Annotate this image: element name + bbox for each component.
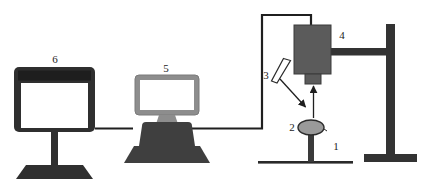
display-neck <box>51 132 58 165</box>
stage-baseline <box>258 161 353 164</box>
display-header-band <box>18 71 91 81</box>
label-computer: 5 <box>163 62 169 74</box>
computer-screen <box>140 80 194 110</box>
computer-body <box>139 122 195 146</box>
sample-pedestal <box>308 132 314 162</box>
schematic-figure: 6 5 4 3 2 1 <box>0 0 423 196</box>
computer-base <box>124 146 210 163</box>
computer-workstation <box>124 75 210 163</box>
label-sample: 2 <box>289 121 295 133</box>
display-base <box>16 165 93 179</box>
sample-specimen <box>298 120 324 135</box>
label-sample-stage: 1 <box>333 140 339 152</box>
detector-lens <box>305 74 321 84</box>
stand-column <box>386 24 395 160</box>
stand-foot <box>364 154 417 162</box>
cable-computer-to-detector <box>192 15 311 129</box>
display-monitor <box>14 67 95 179</box>
label-display-monitor: 6 <box>52 53 58 65</box>
incident-beam-arrow <box>280 79 306 107</box>
detector-head <box>294 25 331 84</box>
display-screen <box>21 83 88 128</box>
sample-stage-assembly <box>258 120 353 164</box>
stand-arm <box>330 48 388 56</box>
label-mirror: 3 <box>263 69 269 81</box>
detector-body <box>294 25 331 74</box>
label-detector-head: 4 <box>339 29 345 41</box>
support-stand <box>330 24 417 162</box>
